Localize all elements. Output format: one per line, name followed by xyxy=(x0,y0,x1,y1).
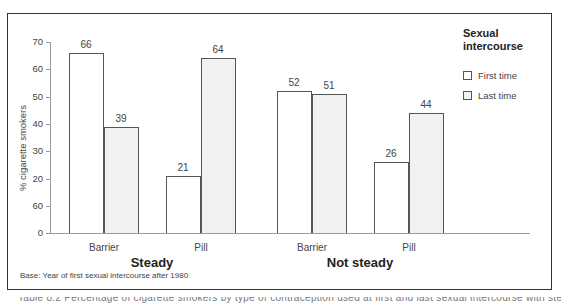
y-tick-label: 20 xyxy=(23,173,43,184)
legend-label: Last time xyxy=(478,90,517,101)
bar-last-time xyxy=(409,113,444,233)
y-tick-label: 40 xyxy=(23,118,43,129)
category-label-steady-pill: Pill xyxy=(171,242,231,253)
y-tick-label: 70 xyxy=(23,36,43,47)
category-label-notsteady-barrier: Barrier xyxy=(282,242,342,253)
bar-last-time xyxy=(312,94,347,233)
y-tick-label: 60 xyxy=(23,200,43,211)
y-tick xyxy=(46,151,50,152)
bar-first-time xyxy=(374,162,409,233)
y-axis-line xyxy=(50,42,51,234)
legend-item-last-time: Last time xyxy=(463,90,517,101)
legend-swatch-first-time xyxy=(463,71,472,80)
group-label-not-steady: Not steady xyxy=(300,255,420,270)
y-tick xyxy=(46,42,50,43)
bar-value-label: 64 xyxy=(201,44,235,55)
bar-value-label: 21 xyxy=(166,162,200,173)
bar-value-label: 66 xyxy=(69,39,103,50)
x-axis-line xyxy=(46,233,530,234)
bar-value-label: 51 xyxy=(312,80,346,91)
cutoff-caption: Table 8.2 Percentage of cigarette smoker… xyxy=(0,297,561,303)
y-tick xyxy=(46,179,50,180)
y-tick xyxy=(46,124,50,125)
legend-title-line2: intercourse xyxy=(463,40,523,53)
bar-value-label: 44 xyxy=(409,99,443,110)
legend-item-first-time: First time xyxy=(463,70,517,81)
y-tick xyxy=(46,206,50,207)
legend-label: First time xyxy=(478,70,517,81)
legend-title: Sexual intercourse xyxy=(463,27,523,53)
category-label-notsteady-pill: Pill xyxy=(379,242,439,253)
group-label-steady: Steady xyxy=(92,255,212,270)
category-label-steady-barrier: Barrier xyxy=(74,242,134,253)
bar-value-label: 52 xyxy=(277,77,311,88)
y-tick-label: 30 xyxy=(23,145,43,156)
footnote: Base: Year of first sexual intercourse a… xyxy=(20,271,188,280)
bar-value-label: 26 xyxy=(374,148,408,159)
bar-value-label: 39 xyxy=(104,113,138,124)
bar-first-time xyxy=(277,91,312,233)
legend-swatch-last-time xyxy=(463,91,472,100)
cutoff-caption-text: Table 8.2 Percentage of cigarette smoker… xyxy=(0,297,561,303)
y-tick xyxy=(46,233,50,234)
y-tick-label: 50 xyxy=(23,91,43,102)
y-tick-label: 60 xyxy=(23,63,43,74)
bar-first-time xyxy=(166,176,201,233)
bar-first-time xyxy=(69,53,104,233)
y-tick xyxy=(46,97,50,98)
legend-title-line1: Sexual xyxy=(463,27,523,40)
bar-last-time xyxy=(104,127,139,233)
bar-last-time xyxy=(201,58,236,233)
y-tick xyxy=(46,69,50,70)
y-tick-label: 0 xyxy=(23,227,43,238)
